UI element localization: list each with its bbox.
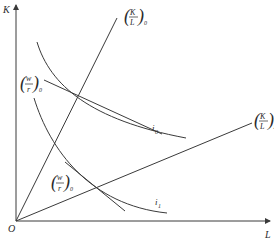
svg-text:L: L	[129, 18, 135, 27]
svg-text:L: L	[259, 122, 265, 131]
isoquant-i0-label: i 0	[152, 123, 158, 135]
origin-label: O	[8, 223, 15, 234]
isoquant-i1-curve	[34, 98, 167, 213]
svg-text:K: K	[259, 112, 266, 121]
svg-text:1: 1	[273, 124, 274, 130]
price-line-lower	[65, 162, 125, 211]
l-axis-label: L	[264, 229, 271, 240]
price-ratio-upper-label: ( w r ) 0	[20, 73, 42, 94]
svg-text:): )	[137, 6, 144, 27]
svg-text:): )	[63, 172, 70, 193]
svg-text:w: w	[57, 173, 63, 182]
isoquant-i0-curve	[37, 42, 186, 138]
ray-1-label: ( K L ) 1	[254, 110, 274, 131]
svg-text:r: r	[58, 184, 62, 193]
k-axis-label: K	[2, 4, 11, 15]
isoquant-i1-label: i 1	[155, 197, 161, 209]
isoquant-diagram: K L O ( K L ) 0 ( K L ) 1 ( w r ) 0 ( w …	[0, 0, 274, 243]
svg-text:r: r	[27, 85, 31, 94]
price-line-upper	[44, 80, 162, 134]
svg-text:): )	[32, 73, 39, 94]
svg-text:1: 1	[158, 203, 161, 209]
svg-text:w: w	[26, 74, 32, 83]
svg-text:0: 0	[70, 186, 73, 192]
price-ratio-lower-label: ( w r ) 0	[51, 172, 73, 193]
svg-text:0: 0	[144, 20, 147, 26]
svg-text:K: K	[129, 8, 136, 17]
svg-text:0: 0	[39, 87, 42, 93]
svg-text:0: 0	[155, 129, 158, 135]
ray-0-label: ( K L ) 0	[124, 6, 147, 27]
